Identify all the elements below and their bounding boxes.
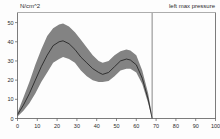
y-axis-ticks: 01020304050: [7, 20, 17, 122]
x-tick-label: 30: [74, 123, 80, 129]
y-tick-label: 20: [7, 77, 13, 83]
y-tick-label: 30: [7, 58, 13, 64]
x-tick-label: 100: [211, 123, 220, 129]
x-tick-label: 40: [94, 123, 100, 129]
x-tick-label: 70: [153, 123, 159, 129]
y-tick-label: 0: [10, 116, 13, 122]
x-axis-ticks: 0102030405060708090100: [16, 119, 220, 129]
x-tick-label: 20: [54, 123, 60, 129]
y-tick-label: 10: [7, 96, 13, 102]
chart-container: N/cm^2 left max pressure 010203040506070…: [0, 0, 220, 139]
x-tick-label: 80: [173, 123, 179, 129]
x-tick-label: 10: [34, 123, 40, 129]
x-tick-label: 50: [113, 123, 119, 129]
x-tick-label: 60: [133, 123, 139, 129]
y-tick-label: 40: [7, 39, 13, 45]
plot-area: 0102030405060708090100 01020304050: [0, 0, 220, 139]
y-tick-label: 50: [7, 20, 13, 26]
variation-band: [18, 24, 153, 119]
x-tick-label: 0: [16, 123, 19, 129]
x-tick-label: 90: [193, 123, 199, 129]
